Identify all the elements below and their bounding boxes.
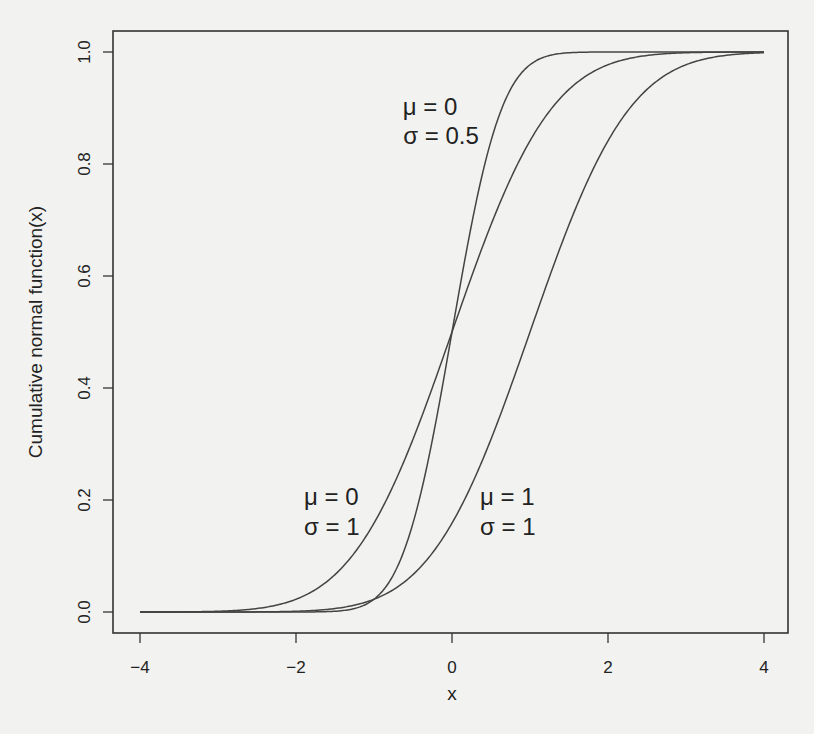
x-tick-label: 0: [447, 658, 456, 677]
y-axis-title: Cumulative normal function(x): [25, 206, 46, 458]
svg-text:σ = 0.5: σ = 0.5: [403, 122, 479, 149]
y-tick-label: 0.6: [75, 264, 94, 288]
y-tick-label: 0.8: [75, 152, 94, 176]
x-axis: −4−2024: [130, 633, 768, 677]
y-tick-label: 0.4: [75, 376, 94, 400]
x-axis-title: x: [447, 683, 457, 704]
annotation-mu0-sigma1: μ = 0 σ = 1: [304, 483, 360, 540]
x-tick-label: 2: [603, 658, 612, 677]
y-tick-label: 0.0: [75, 600, 94, 624]
x-tick-label: 4: [759, 658, 768, 677]
y-tick-label: 0.2: [75, 488, 94, 512]
x-tick-label: −4: [130, 658, 149, 677]
annotation-mu0-sigma05: μ = 0 σ = 0.5: [403, 93, 479, 149]
svg-text:μ = 1: μ = 1: [480, 483, 535, 510]
svg-text:σ = 1: σ = 1: [480, 513, 536, 540]
x-tick-label: −2: [286, 658, 305, 677]
chart: 0.00.20.40.60.81.0 −4−2024 x Cumulative …: [0, 0, 814, 734]
svg-text:μ = 0: μ = 0: [403, 93, 458, 120]
y-tick-label: 1.0: [75, 40, 94, 64]
annotation-mu1-sigma1: μ = 1 σ = 1: [480, 483, 536, 540]
svg-text:σ = 1: σ = 1: [304, 513, 360, 540]
svg-text:μ = 0: μ = 0: [304, 483, 359, 510]
y-axis: 0.00.20.40.60.81.0: [75, 40, 113, 624]
